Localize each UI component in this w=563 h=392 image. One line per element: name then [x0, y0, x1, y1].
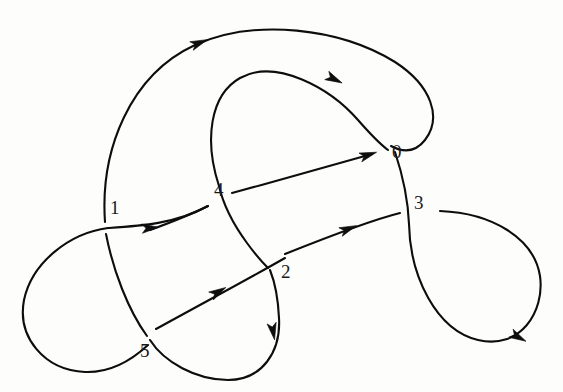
strand-left-loop	[23, 228, 148, 372]
strand-layer	[23, 30, 541, 380]
arrow-upper-left-icon	[190, 35, 209, 50]
strand-bottom-loop	[150, 270, 279, 380]
arrowhead-glyph	[359, 148, 378, 162]
crossing-label-1: 1	[110, 198, 120, 217]
strand-left-vertical-descending	[106, 234, 147, 336]
arrow-inner-loop-top-icon	[325, 71, 344, 87]
strand-inner-loop-top	[211, 72, 388, 186]
arrowhead-glyph	[509, 329, 528, 345]
strand-diagonal-arc-to-0	[232, 154, 372, 193]
arrow-into-0-icon	[359, 148, 378, 162]
crossing-label-5: 5	[140, 341, 150, 360]
strand-long-diagonal-arc	[156, 258, 285, 329]
knot-diagram-canvas	[0, 0, 563, 392]
arrowhead-layer	[142, 35, 528, 345]
arrowhead-glyph	[325, 71, 344, 87]
arrowhead-glyph	[339, 221, 358, 236]
strand-inner-loop-tail	[219, 186, 268, 268]
arrowhead-glyph	[190, 35, 209, 50]
strand-lower-left-horizontal-arc	[108, 206, 208, 228]
crossing-label-3: 3	[414, 193, 424, 212]
arrow-right-loop-icon	[509, 329, 528, 345]
strand-right-teardrop-loop	[409, 211, 541, 342]
strand-outer-big-arc	[104, 30, 433, 222]
arrow-toward-3-icon	[339, 221, 358, 236]
strand-right-horizontal-arc	[285, 213, 400, 254]
crossing-label-2: 2	[281, 262, 291, 281]
knot-diagram-figure: 012345	[0, 0, 563, 392]
crossing-label-4: 4	[214, 180, 224, 199]
crossing-label-0: 0	[392, 142, 402, 161]
